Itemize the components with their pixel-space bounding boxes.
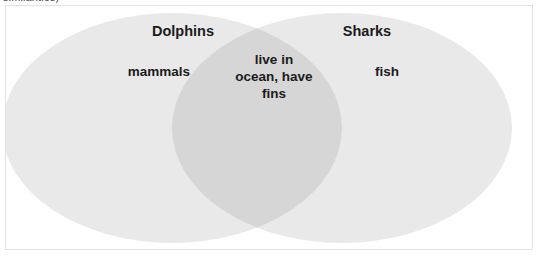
clipped-caption-text: similarities) [3,0,59,3]
venn-diagram: Dolphins Sharks mammals live in ocean, h… [6,6,533,250]
diagram-frame: Dolphins Sharks mammals live in ocean, h… [5,5,533,250]
venn-circles-graphic [6,6,533,250]
